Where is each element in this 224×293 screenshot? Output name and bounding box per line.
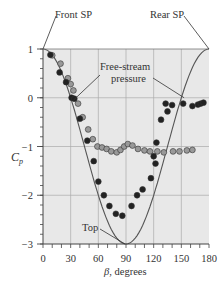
free-stream-label-line1: Free-stream — [100, 61, 150, 72]
svg-text:0: 0 — [28, 93, 33, 104]
front-sp-label: Front SP — [55, 9, 92, 20]
free-stream-label-line2: pressure — [111, 73, 146, 84]
svg-text:1: 1 — [28, 44, 33, 55]
x-axis-label: β, degrees — [103, 266, 147, 277]
svg-text:60: 60 — [93, 253, 104, 264]
svg-text:120: 120 — [146, 253, 162, 264]
chart-container: 030609012015018010−1−2−3 Front SP Rear S… — [0, 0, 224, 293]
svg-text:150: 150 — [173, 253, 189, 264]
svg-text:90: 90 — [121, 253, 132, 264]
pressure-coefficient-chart: 030609012015018010−1−2−3 Front SP Rear S… — [0, 0, 224, 293]
rear-sp-label: Rear SP — [150, 9, 184, 20]
svg-text:−1: −1 — [22, 142, 33, 153]
svg-text:30: 30 — [65, 253, 76, 264]
top-label: Top — [82, 222, 98, 233]
svg-text:180: 180 — [201, 253, 217, 264]
svg-text:0: 0 — [40, 253, 45, 264]
svg-text:−3: −3 — [22, 239, 33, 250]
svg-text:−2: −2 — [22, 190, 33, 201]
